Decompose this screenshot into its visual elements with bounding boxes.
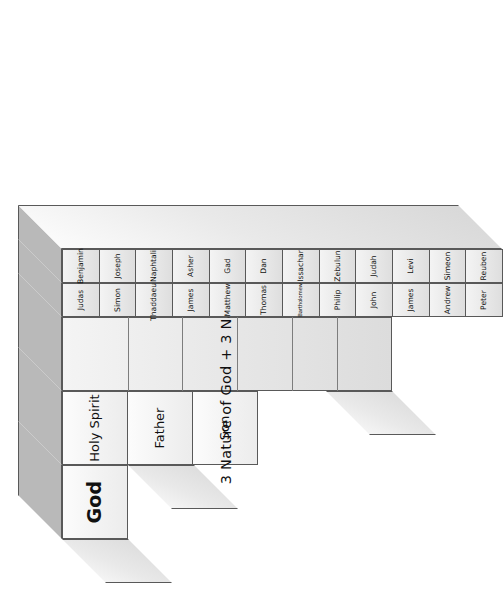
tribe-cell: Judah (355, 249, 393, 283)
apostle-label: Simon (114, 288, 122, 312)
nature-divider (337, 317, 338, 391)
apostle-label: Peter (480, 290, 488, 310)
apostle-cell: Philip (319, 283, 357, 317)
apostle-cell: Thomas (245, 283, 283, 317)
holy-spirit-label: Holy Spirit (88, 394, 102, 461)
nature-front-face: 3 Nature of God + 3 Nature of Man (62, 317, 392, 391)
trinity-cell-father: Father (127, 391, 193, 465)
tribe-cell: Issachar (282, 249, 320, 283)
apostle-cell: Peter (465, 283, 503, 317)
apostle-cell: Matthew (209, 283, 247, 317)
tribe-label: Levi (407, 258, 415, 273)
tribe-label: Issachar (297, 250, 305, 282)
apostle-label: Bartholomew (298, 283, 304, 317)
apostle-cell: Simon (99, 283, 137, 317)
tribe-cell: Levi (392, 249, 430, 283)
apostle-label: Philip (334, 290, 342, 311)
tribe-label: Dan (260, 258, 268, 273)
nature-side-face (326, 391, 436, 435)
apostles-grid: JudasSimonThaddaeusJamesMatthewThomasBar… (62, 283, 502, 317)
nature-divider (182, 317, 183, 391)
god-front-face: God (62, 465, 128, 539)
apostle-label: Andrew (444, 286, 452, 315)
tribe-cell: Naphtali (135, 249, 173, 283)
tribe-label: Naphtali (150, 250, 158, 282)
tribe-cell: Asher (172, 249, 210, 283)
apostle-label: John (370, 292, 378, 309)
tribe-label: Asher (187, 255, 195, 277)
tribe-label: Simeon (444, 252, 452, 280)
trinity-cell-holy-spirit: Holy Spirit (62, 391, 128, 465)
tribe-label: Gad (224, 258, 232, 273)
apostle-cell: Bartholomew (282, 283, 320, 317)
tribes-right-side-face (18, 205, 502, 249)
tribe-label: Joseph (114, 253, 122, 278)
tribe-label: Reuben (480, 252, 488, 281)
marker-level-1: * (0, 505, 1, 513)
nature-divider (292, 317, 293, 391)
tribe-cell: Benjamin (62, 249, 100, 283)
tribe-cell: Reuben (465, 249, 503, 283)
apostle-cell: James (392, 283, 430, 317)
apostle-cell: Andrew (429, 283, 467, 317)
apostle-label: James (407, 289, 415, 312)
apostle-cell: John (355, 283, 393, 317)
tribe-cell: Gad (209, 249, 247, 283)
apostle-label: Thomas (260, 285, 268, 315)
tribe-label: Judah (370, 255, 378, 276)
tribe-cell: Zebulun (319, 249, 357, 283)
apostle-cell: James (172, 283, 210, 317)
tribe-label: Zebulun (334, 250, 342, 281)
nature-divider (128, 317, 129, 391)
tribe-cell: Joseph (99, 249, 137, 283)
tribe-cell: Dan (245, 249, 283, 283)
father-label: Father (153, 408, 167, 449)
nature-divider (237, 317, 238, 391)
tribes-grid: BenjaminJosephNaphtaliAsherGadDanIssacha… (62, 249, 502, 283)
god-label: God (85, 481, 105, 524)
apostle-label: Matthew (224, 284, 232, 317)
apostle-label: James (187, 289, 195, 312)
apostle-cell: Judas (62, 283, 100, 317)
tribe-label: Benjamin (77, 248, 85, 284)
apostle-label: Thaddaeus (150, 279, 158, 321)
apostle-label: Judas (77, 290, 85, 310)
apostle-cell: Thaddaeus (135, 283, 173, 317)
god-side-face (62, 539, 172, 583)
tribe-cell: Simeon (429, 249, 467, 283)
